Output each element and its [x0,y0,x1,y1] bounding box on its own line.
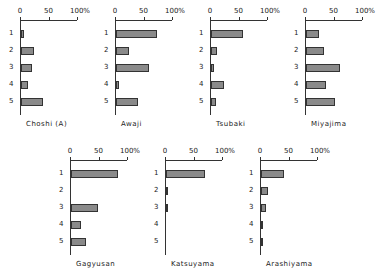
x-tick [210,17,211,20]
bar [306,47,324,55]
category-label: 3 [104,63,108,71]
category-label: 4 [199,80,203,88]
category-label: 5 [249,237,253,245]
panel-title: Arashiyama [266,260,313,268]
bar [166,204,168,212]
x-tick [77,17,78,20]
category-label: 2 [59,186,63,194]
x-tick [20,17,21,20]
x-tick [99,157,100,160]
x-tick-label: 100% [120,147,140,155]
x-axis [210,20,267,21]
x-axis [20,20,77,21]
category-label: 1 [9,29,13,37]
category-label: 2 [249,186,253,194]
panel-title: Gagyusan [76,260,115,268]
bar [261,187,268,195]
bar [166,170,205,178]
category-label: 1 [249,169,253,177]
x-tick-label: 0 [303,7,307,15]
category-label: 3 [154,203,158,211]
x-tick [317,157,318,160]
x-tick [115,17,116,20]
x-tick [127,157,128,160]
x-tick [172,17,173,20]
category-label: 1 [59,169,63,177]
x-tick-label: 50 [234,7,243,15]
category-label: 5 [199,97,203,105]
x-tick-label: 100% [165,7,185,15]
bar [21,98,43,106]
category-label: 4 [249,220,253,228]
category-label: 4 [154,220,158,228]
x-axis [165,160,222,161]
chart-panel: 050100%12345Arashiyama [240,140,335,260]
x-tick-label: 100% [70,7,90,15]
x-tick [289,157,290,160]
x-tick [144,17,145,20]
panel-title: Choshi (A) [26,120,67,128]
x-tick [260,157,261,160]
x-tick [334,17,335,20]
x-tick-label: 0 [18,7,22,15]
panel-title: Katsuyama [171,260,215,268]
bar [261,238,263,246]
bar [21,47,34,55]
bar [306,64,340,72]
x-tick [222,157,223,160]
category-label: 2 [294,46,298,54]
x-tick [49,17,50,20]
chart-panel: 050100%12345Tsubaki [190,0,285,120]
bar [71,238,86,246]
category-label: 5 [104,97,108,105]
category-label: 4 [9,80,13,88]
bar [211,81,224,89]
x-tick-label: 100% [260,7,280,15]
category-label: 5 [154,237,158,245]
panel-title: Miyajima [311,120,346,128]
x-tick-label: 0 [113,7,117,15]
x-axis [115,20,172,21]
category-label: 1 [199,29,203,37]
category-label: 5 [9,97,13,105]
bar [116,30,157,38]
category-label: 3 [249,203,253,211]
bar [306,30,319,38]
category-label: 4 [104,80,108,88]
bar [211,47,217,55]
category-label: 4 [59,220,63,228]
category-label: 2 [9,46,13,54]
panel-title: Tsubaki [216,120,245,128]
x-tick [239,17,240,20]
x-tick [362,17,363,20]
panel-title: Awaji [121,120,142,128]
x-axis [305,20,362,21]
chart-panel: 050100%12345Katsuyama [145,140,240,260]
bar [71,221,81,229]
category-label: 3 [59,203,63,211]
x-axis [70,160,127,161]
bar [21,81,28,89]
x-tick-label: 100% [310,147,330,155]
bar [261,204,266,212]
bar [116,47,129,55]
x-axis [260,160,317,161]
chart-panel: 050100%12345Miyajima [285,0,380,120]
category-label: 3 [294,63,298,71]
category-label: 3 [199,63,203,71]
bar [166,187,168,195]
chart-panel: 050100%12345Choshi (A) [0,0,95,120]
x-tick-label: 0 [163,147,167,155]
chart-panel: 050100%12345Gagyusan [50,140,145,260]
category-label: 3 [9,63,13,71]
x-tick [305,17,306,20]
category-label: 2 [154,186,158,194]
bar [116,98,138,106]
category-label: 5 [294,97,298,105]
x-tick-label: 100% [215,147,235,155]
bar [211,30,243,38]
category-label: 2 [104,46,108,54]
bar [116,81,119,89]
x-tick-label: 0 [258,147,262,155]
category-label: 4 [294,80,298,88]
